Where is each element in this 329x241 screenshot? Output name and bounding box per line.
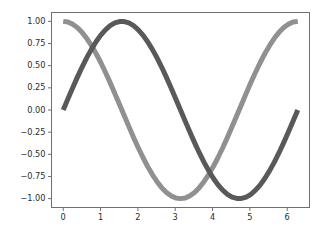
y-tick-label: 0.75 [27, 38, 45, 48]
x-tick-label: 1 [98, 212, 103, 222]
x-tick-label: 4 [210, 212, 215, 222]
y-tick-label: −0.25 [20, 127, 45, 137]
y-tick-label: −1.00 [20, 193, 45, 203]
x-tick-label: 3 [173, 212, 178, 222]
x-tick-label: 5 [247, 212, 252, 222]
y-tick-label: −0.75 [20, 171, 45, 181]
y-tick-label: 0.50 [27, 60, 45, 70]
y-tick-label: −0.50 [20, 149, 45, 159]
x-tick-label: 0 [61, 212, 66, 222]
line-chart: 1.000.750.500.250.00−0.25−0.50−0.75−1.00… [0, 0, 329, 241]
y-tick-label: 0.25 [27, 82, 45, 92]
x-tick-label: 2 [135, 212, 140, 222]
x-tick-label: 6 [285, 212, 290, 222]
y-tick-label: 1.00 [27, 16, 45, 26]
y-tick-label: 0.00 [27, 105, 45, 115]
figure-canvas: 1.000.750.500.250.00−0.25−0.50−0.75−1.00… [0, 0, 329, 241]
